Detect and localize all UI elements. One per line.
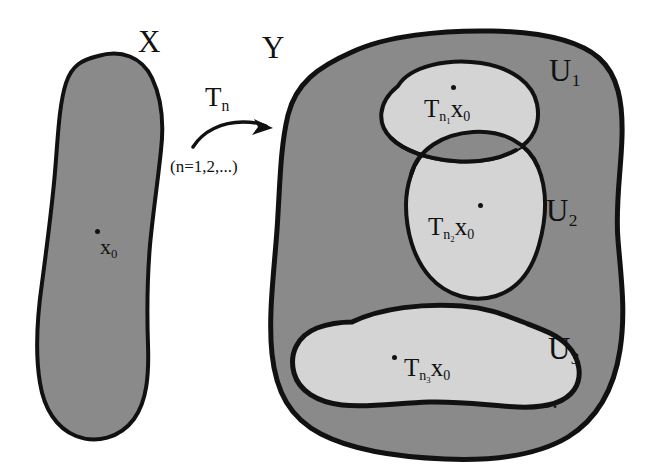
open-set-U3-label-base: U bbox=[548, 331, 570, 366]
base-point-label: x0 bbox=[100, 236, 117, 258]
open-set-U3-point-dot bbox=[392, 355, 397, 360]
map-label-subscript: n bbox=[222, 97, 230, 114]
open-set-U3-label: U3 bbox=[548, 333, 579, 364]
open-set-U2-label-base: U bbox=[546, 193, 568, 228]
u3-point-T: T bbox=[404, 354, 419, 381]
base-point-base: x bbox=[100, 234, 111, 259]
map-range-label: (n=1,2,...) bbox=[170, 158, 238, 175]
u1-point-x-sub: 0 bbox=[463, 109, 470, 124]
open-set-U1-label-subscript: 1 bbox=[572, 71, 581, 90]
u3-point-n-sub: n3 bbox=[419, 368, 430, 383]
u1-point-index: 1 bbox=[446, 116, 450, 126]
u1-point-T: T bbox=[424, 95, 439, 122]
map-label: Tn bbox=[205, 84, 229, 111]
u2-point-n-sub: n2 bbox=[443, 227, 454, 242]
u1-point-n-sub: n1 bbox=[439, 109, 450, 124]
u2-point-index: 2 bbox=[450, 234, 454, 244]
open-set-U3-point-label: Tn3x0 bbox=[404, 355, 450, 380]
u2-point-x: x bbox=[455, 213, 468, 240]
set-Y-label: Y bbox=[262, 32, 284, 63]
open-set-U2-label-subscript: 2 bbox=[569, 211, 578, 230]
open-set-U1-point-dot bbox=[451, 85, 456, 90]
u2-point-x-sub: 0 bbox=[467, 227, 474, 242]
open-set-U2-point-label: Tn2x0 bbox=[428, 214, 474, 239]
u2-point-T: T bbox=[428, 213, 443, 240]
u3-point-x: x bbox=[431, 354, 444, 381]
u3-point-x-sub: 0 bbox=[443, 368, 450, 383]
u3-point-index: 3 bbox=[426, 375, 430, 385]
map-arrow-curve bbox=[193, 122, 266, 147]
open-set-U2-label: U2 bbox=[546, 195, 577, 226]
open-set-U2-point-dot bbox=[478, 203, 483, 208]
base-point-subscript: 0 bbox=[111, 247, 117, 261]
open-set-U1-point-label: Tn1x0 bbox=[424, 96, 470, 121]
map-arrow bbox=[193, 119, 273, 147]
map-label-base: T bbox=[205, 82, 222, 112]
open-set-U3-label-subscript: 3 bbox=[571, 349, 580, 368]
sequence-ellipsis: ... bbox=[536, 388, 560, 412]
figure-canvas: X Y Tn (n=1,2,...) x0 U1 Tn1x0 U2 Tn2x0 … bbox=[0, 0, 649, 473]
u1-point-x: x bbox=[451, 95, 464, 122]
open-set-U1-label-base: U bbox=[549, 53, 571, 88]
set-X-label: X bbox=[138, 26, 160, 57]
open-set-U1-label: U1 bbox=[549, 55, 580, 86]
